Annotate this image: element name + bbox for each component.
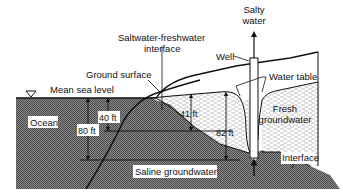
interface-label-1: Saltwater-freshwater [118, 32, 205, 43]
ground-surface-leader [148, 80, 160, 92]
dim-40ft-label: 40 ft [99, 113, 117, 123]
well-leader [234, 56, 249, 61]
fresh-groundwater-label-1: Fresh [273, 103, 297, 114]
interface-label-2: interface [144, 43, 180, 54]
salty-water-label-2: water [241, 15, 265, 26]
fresh-groundwater-label-2: groundwater [259, 114, 312, 125]
salty-water-label-1: Salty [243, 4, 264, 15]
sea-level-triangle-icon [26, 91, 36, 97]
dim-82ft-label: 82 ft [216, 128, 234, 138]
saltwater-intrusion-diagram: Salty water Saltwater-freshwater interfa… [0, 0, 343, 194]
water-table-label: Water table [269, 71, 317, 82]
dim-80ft-label: 80 ft [78, 126, 96, 136]
ground-surface-label: Ground surface [86, 69, 151, 80]
well-label: Well [216, 51, 234, 62]
ocean-label: Ocean [30, 117, 58, 128]
well [250, 34, 258, 176]
saline-groundwater-label: Saline groundwater [135, 166, 217, 177]
interface-bottom-label: Interface [282, 152, 319, 163]
mean-sea-level-label: Mean sea level [50, 84, 114, 95]
dim-41ft-label: 41 ft [180, 109, 198, 119]
water-table-leader-right [262, 77, 266, 92]
